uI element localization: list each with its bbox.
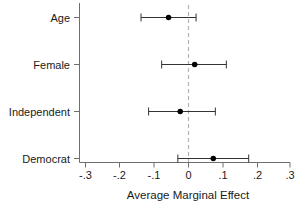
y-axis-labels: Age Female Independent Democrat <box>9 12 70 165</box>
estimate-row-female <box>162 61 227 69</box>
x-axis-tick-labels: -.3 -.2 -.1 0 .1 .2 .3 <box>79 169 295 181</box>
point-estimate-female <box>192 62 198 68</box>
category-label-age: Age <box>50 12 70 24</box>
point-estimate-independent <box>177 109 183 115</box>
x-axis-ticks <box>86 163 291 168</box>
x-tick-label-0.1: .1 <box>218 169 227 181</box>
y-axis-ticks <box>74 18 80 159</box>
x-tick-label-0.3: .3 <box>285 169 294 181</box>
x-tick-label--0.1: -.1 <box>148 169 161 181</box>
x-tick-label-0: 0 <box>185 169 191 181</box>
plot-axes <box>80 3 291 163</box>
x-tick-label--0.3: -.3 <box>79 169 92 181</box>
estimate-row-independent <box>149 108 216 116</box>
x-axis-title: Average Marginal Effect <box>127 189 250 201</box>
category-label-independent: Independent <box>9 106 70 118</box>
x-tick-label-0.2: .2 <box>253 169 262 181</box>
x-tick-label--0.2: -.2 <box>113 169 126 181</box>
point-estimate-democrat <box>211 156 217 162</box>
coefficient-plot: Age Female Independent Democrat -.3 -.2 … <box>0 0 297 209</box>
plot-canvas: Age Female Independent Democrat -.3 -.2 … <box>0 0 297 209</box>
point-estimate-age <box>166 15 172 21</box>
category-label-democrat: Democrat <box>22 153 70 165</box>
estimate-series <box>141 14 249 163</box>
estimate-row-age <box>141 14 196 22</box>
category-label-female: Female <box>33 59 70 71</box>
